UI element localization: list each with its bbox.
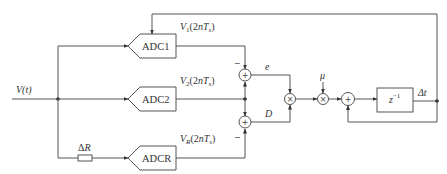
adc2-block: ADC2 [128,87,176,111]
multiply-icon: × [320,95,327,104]
signal-e-label: e [265,61,270,72]
delay-block: z−1 [377,88,413,112]
adcr-output-label: VR(2nTs) [180,133,215,146]
mu-label: μ [319,70,325,81]
adcr-block: ADCR [128,146,176,170]
sum-e-minus-sign: − [234,59,241,68]
input-line [12,97,60,101]
sum-acc-node: + [342,93,355,106]
mult-ed-node: × [285,94,296,105]
sum-d-node: + [239,116,251,128]
adc1-output-label: V1(2nTs) [180,21,215,34]
plus-icon: + [345,95,352,104]
sum-e-node: + [239,69,251,81]
wire-e [251,75,290,93]
mult-mu-node: × [318,94,329,105]
plus-icon: + [242,71,249,80]
sum-d-minus-sign: − [234,133,241,142]
adc2-output-label: V2(2nTs) [180,75,215,88]
adc1-block: ADC1 [128,34,176,58]
block-diagram: V(t) ΔR ADC1 ADC2 ADCR V1(2nTs) V2(2nTs)… [0,0,447,174]
plus-icon: + [242,118,249,127]
resistor-label: ΔR [78,142,91,153]
multiply-icon: × [287,95,294,104]
adc1-label: ADC1 [142,41,169,52]
resistor-icon [78,155,92,161]
adc2-label: ADC2 [142,94,169,105]
adcr-label: ADCR [142,153,171,164]
signal-d-label: D [264,108,273,119]
output-label: Δt [417,87,427,98]
input-label: V(t) [16,84,32,96]
